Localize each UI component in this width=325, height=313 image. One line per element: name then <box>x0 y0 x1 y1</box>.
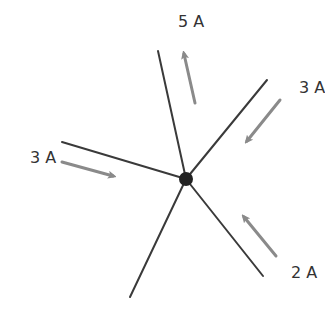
current-arrow-icon <box>184 54 195 103</box>
wire-bottom <box>130 179 186 297</box>
wire-left <box>62 142 186 179</box>
wires <box>62 51 267 297</box>
current-arrows <box>62 54 280 256</box>
current-label: 5 A <box>178 12 204 31</box>
wire-top <box>158 51 186 179</box>
current-labels: 5 A3 A3 A2 A <box>30 12 325 282</box>
current-arrow-icon <box>62 162 113 176</box>
junction-diagram: 5 A3 A3 A2 A <box>0 0 325 313</box>
current-arrow-icon <box>244 217 276 256</box>
current-label: 2 A <box>291 263 317 282</box>
junction-node <box>179 172 193 186</box>
current-label: 3 A <box>299 78 325 97</box>
current-arrow-icon <box>247 100 280 141</box>
current-label: 3 A <box>30 148 56 167</box>
